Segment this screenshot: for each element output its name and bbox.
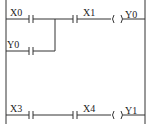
rung-1: [6, 15, 145, 55]
label-y1-coil: Y1: [125, 106, 137, 116]
contact-y0-branch: [29, 47, 33, 55]
label-x0: X0: [10, 8, 22, 18]
coil-y1: [113, 111, 123, 119]
contact-x4: [73, 111, 77, 119]
contact-x1: [73, 15, 77, 23]
label-y0-branch: Y0: [7, 40, 19, 50]
contact-x0: [29, 15, 33, 23]
label-x4: X4: [83, 104, 95, 114]
label-x3: X3: [10, 104, 22, 114]
label-x1: X1: [83, 8, 95, 18]
coil-y0: [113, 15, 123, 23]
label-y0-coil: Y0: [125, 10, 137, 20]
contact-x3: [29, 111, 33, 119]
